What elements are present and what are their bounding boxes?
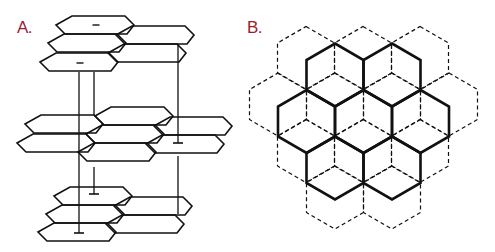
dashed-hexagon <box>364 166 421 229</box>
bottom-layer <box>38 187 192 241</box>
hexagon <box>154 117 232 135</box>
hexagon <box>78 143 156 161</box>
hexagon <box>146 135 224 153</box>
panel-b-overlapping-lattices <box>250 27 478 230</box>
hexagon <box>106 215 184 233</box>
hexagon <box>108 44 186 62</box>
diagram-canvas <box>0 0 495 252</box>
dashed-lattice <box>250 27 478 230</box>
vertical-connector <box>89 167 99 194</box>
hexagon <box>38 223 116 241</box>
panel-a-stacked-layers <box>17 16 232 241</box>
top-layer <box>40 16 194 71</box>
dashed-hexagon <box>307 166 364 229</box>
hexagon <box>114 197 192 215</box>
hexagon <box>40 53 118 71</box>
hexagon <box>116 26 194 44</box>
middle-layer <box>17 107 232 161</box>
